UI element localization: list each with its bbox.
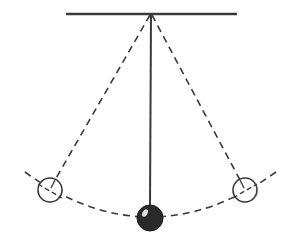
left-bob	[38, 178, 62, 202]
left-extreme-string	[55, 15, 150, 180]
rest-bob	[137, 205, 163, 231]
pendulum-diagram	[0, 0, 290, 245]
pendulum-svg	[0, 0, 290, 245]
right-extreme-string	[152, 15, 240, 180]
right-bob	[233, 178, 257, 202]
rest-string	[150, 14, 151, 206]
